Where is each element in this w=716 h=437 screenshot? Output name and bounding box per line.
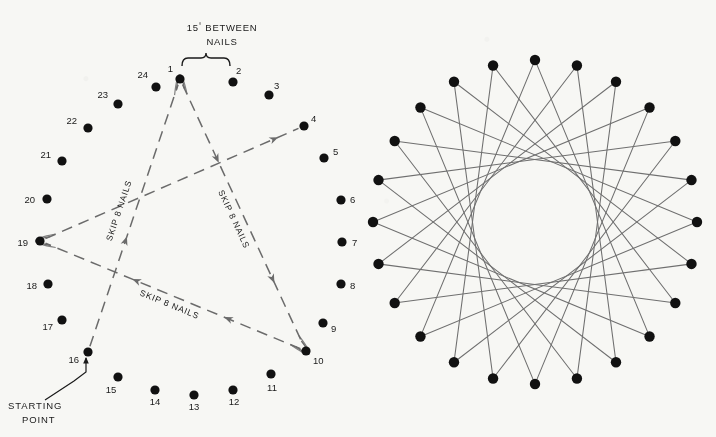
skip-nails-label-16-to-1: SKIP 8 NAILS [104, 179, 134, 242]
pattern-nail-2[interactable] [572, 60, 582, 70]
pattern-nail-24[interactable] [488, 60, 498, 70]
nail-12[interactable] [228, 385, 237, 394]
nail-label-16: 16 [68, 354, 79, 365]
nail-group-completed [368, 55, 702, 389]
chord-20-to-5 [382, 141, 672, 179]
nail-22[interactable] [83, 123, 92, 132]
angle-annotation: 15° BETWEEN NAILS [182, 22, 257, 67]
angle-annotation-line2: NAILS [207, 36, 238, 47]
pattern-nail-20[interactable] [373, 175, 383, 185]
nail-1[interactable] [175, 74, 184, 83]
pattern-nail-8[interactable] [686, 259, 696, 269]
nail-label-13: 13 [189, 401, 200, 412]
direction-arrow-icon [131, 276, 142, 286]
pattern-nail-7[interactable] [692, 217, 702, 227]
nail-14[interactable] [150, 385, 159, 394]
pattern-nail-1[interactable] [530, 55, 540, 65]
nail-16[interactable] [83, 347, 92, 356]
nail-label-8: 8 [350, 280, 355, 291]
pattern-nail-10[interactable] [644, 331, 654, 341]
pattern-nail-11[interactable] [611, 357, 621, 367]
pattern-nail-15[interactable] [449, 357, 459, 367]
chord-2-to-11 [577, 69, 615, 359]
nail-label-9: 9 [331, 323, 336, 334]
skip-nails-labels: SKIP 8 NAILSSKIP 8 NAILSSKIP 8 NAILS [104, 179, 252, 321]
pattern-nail-16[interactable] [415, 331, 425, 341]
nail-21[interactable] [57, 156, 66, 165]
nail-11[interactable] [266, 369, 275, 378]
pattern-nail-23[interactable] [449, 77, 459, 87]
nail-label-10: 10 [313, 355, 324, 366]
starting-point-callout: STARTING POINT [8, 357, 89, 425]
nail-label-11: 11 [267, 382, 277, 393]
completed-string-art-pattern [368, 55, 702, 389]
pattern-nail-18[interactable] [373, 259, 383, 269]
skip-nails-label-1-to-10: SKIP 8 NAILS [216, 188, 252, 250]
nail-23[interactable] [113, 99, 122, 108]
nail-5[interactable] [319, 153, 328, 162]
figure-canvas: 123456789101112131415161718192021222324 … [0, 0, 716, 437]
nail-4[interactable] [299, 121, 308, 130]
angle-brace-icon [182, 53, 230, 66]
chord-8-to-17 [398, 264, 688, 302]
direction-arrow-icon [223, 314, 234, 324]
pattern-nail-5[interactable] [670, 136, 680, 146]
nail-label-17: 17 [42, 321, 53, 332]
pattern-nail-12[interactable] [572, 373, 582, 383]
thread-segment-10-to-19 [46, 243, 301, 348]
pattern-nail-6[interactable] [686, 175, 696, 185]
pattern-nail-21[interactable] [390, 136, 400, 146]
nail-label-22: 22 [66, 115, 77, 126]
pattern-nail-22[interactable] [415, 102, 425, 112]
chord-14-to-23 [454, 85, 492, 375]
pattern-nail-19[interactable] [368, 217, 378, 227]
direction-arrow-icon [269, 134, 280, 144]
starting-point-label-line1: STARTING [8, 400, 62, 411]
nail-label-3: 3 [274, 80, 279, 91]
nail-label-20: 20 [24, 194, 35, 205]
nail-label-18: 18 [26, 280, 37, 291]
nail-label-7: 7 [352, 237, 357, 248]
string-art-figure: 123456789101112131415161718192021222324 … [0, 0, 716, 437]
nail-10[interactable] [301, 346, 310, 355]
chord-3-to-12 [577, 85, 615, 375]
nail-2[interactable] [228, 77, 237, 86]
pattern-nail-17[interactable] [390, 298, 400, 308]
nail-label-5: 5 [333, 146, 338, 157]
starting-point-leader-line [45, 358, 86, 400]
nail-label-12: 12 [229, 396, 240, 407]
nail-8[interactable] [336, 279, 345, 288]
nail-3[interactable] [264, 90, 273, 99]
nail-label-2: 2 [236, 65, 241, 76]
nail-6[interactable] [336, 195, 345, 204]
chord-9-to-18 [382, 264, 672, 302]
starting-point-label-line2: POINT [22, 414, 56, 425]
nail-label-14: 14 [150, 396, 161, 407]
nail-label-23: 23 [97, 89, 108, 100]
chord-21-to-6 [398, 141, 688, 179]
nail-label-19: 19 [17, 237, 28, 248]
pattern-nail-3[interactable] [611, 77, 621, 87]
angle-annotation-line1: 15° BETWEEN [187, 22, 258, 34]
pattern-nail-14[interactable] [488, 373, 498, 383]
pattern-nail-9[interactable] [670, 298, 680, 308]
direction-arrow-icon [121, 235, 131, 246]
nail-label-15: 15 [106, 384, 117, 395]
thread-segment-19-to-4 [46, 128, 299, 238]
nail-20[interactable] [42, 194, 51, 203]
nail-13[interactable] [189, 390, 198, 399]
pattern-nail-13[interactable] [530, 379, 540, 389]
nail-18[interactable] [43, 279, 52, 288]
nail-number-labels: 123456789101112131415161718192021222324 [17, 63, 357, 412]
nail-19[interactable] [35, 236, 44, 245]
nail-label-4: 4 [311, 113, 316, 124]
pattern-nail-4[interactable] [644, 102, 654, 112]
nail-17[interactable] [57, 315, 66, 324]
nail-24[interactable] [151, 82, 160, 91]
nail-layout-and-threading-diagram: 123456789101112131415161718192021222324 … [8, 22, 357, 426]
nail-9[interactable] [318, 318, 327, 327]
thread-segment-1-to-10 [183, 84, 304, 345]
nail-label-6: 6 [350, 194, 355, 205]
nail-7[interactable] [337, 237, 346, 246]
nail-15[interactable] [113, 372, 122, 381]
